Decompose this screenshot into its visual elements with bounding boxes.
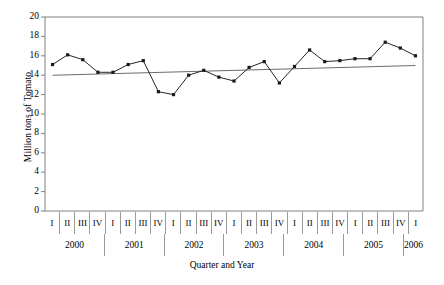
data-point-marker	[96, 71, 99, 74]
quarter-tick-label: I	[227, 212, 242, 234]
data-point-marker	[202, 69, 205, 72]
data-point-marker	[217, 76, 220, 79]
quarter-tick-label: II	[60, 212, 75, 234]
x-axis-title: Quarter and Year	[0, 260, 444, 270]
tomato-production-line-chart: Million tons of Tomato 02468101214161820…	[0, 0, 444, 285]
quarter-tick-label: III	[318, 212, 333, 234]
data-point-marker	[399, 46, 402, 49]
quarter-tick-label: IV	[333, 212, 348, 234]
data-point-marker	[263, 60, 266, 63]
data-point-marker	[51, 63, 54, 66]
trend-line	[53, 66, 416, 76]
data-point-marker	[353, 57, 356, 60]
quarter-tick-label: III	[197, 212, 212, 234]
data-point-marker	[414, 54, 417, 57]
year-tick-label: 2001	[105, 234, 165, 256]
quarter-label-row: IIIIIIIVIIIIIIIVIIIIIIIVIIIIIIIVIIIIIIIV…	[45, 212, 423, 234]
quarter-tick-label: III	[136, 212, 151, 234]
quarter-tick-label: I	[166, 212, 181, 234]
quarter-tick-label: III	[75, 212, 90, 234]
data-point-marker	[127, 63, 130, 66]
data-point-marker	[81, 58, 84, 61]
quarter-tick-label: I	[106, 212, 121, 234]
quarter-tick-label: IV	[272, 212, 287, 234]
quarter-tick-label: IV	[212, 212, 227, 234]
year-tick-label: 2000	[45, 234, 105, 256]
data-point-marker	[232, 79, 235, 82]
quarter-tick-label: I	[45, 212, 60, 234]
quarter-tick-label: I	[348, 212, 363, 234]
data-point-marker	[248, 66, 251, 69]
year-tick-label: 2004	[284, 234, 344, 256]
quarter-tick-label: I	[409, 212, 423, 234]
data-point-marker	[172, 93, 175, 96]
quarter-tick-label: IV	[151, 212, 166, 234]
data-point-marker	[157, 90, 160, 93]
data-point-marker	[111, 71, 114, 74]
data-point-marker	[187, 74, 190, 77]
data-point-marker	[308, 48, 311, 51]
data-point-marker	[323, 60, 326, 63]
year-label-row: 2000200120022003200420052006	[45, 234, 423, 256]
quarter-tick-label: II	[303, 212, 318, 234]
data-point-marker	[278, 81, 281, 84]
quarter-tick-label: III	[378, 212, 393, 234]
quarter-tick-label: II	[181, 212, 196, 234]
year-tick-label: 2002	[165, 234, 225, 256]
x-axis-category-band: IIIIIIIVIIIIIIIVIIIIIIIVIIIIIIIVIIIIIIIV…	[45, 212, 423, 256]
data-point-marker	[66, 53, 69, 56]
year-tick-label: 2003	[224, 234, 284, 256]
data-series-line	[53, 42, 416, 94]
data-point-marker	[384, 41, 387, 44]
quarter-tick-label: IV	[90, 212, 105, 234]
data-point-marker	[293, 65, 296, 68]
quarter-tick-label: II	[242, 212, 257, 234]
data-point-marker	[368, 57, 371, 60]
quarter-tick-label: II	[363, 212, 378, 234]
year-tick-label: 2005	[344, 234, 404, 256]
data-point-marker	[338, 59, 341, 62]
quarter-tick-label: II	[121, 212, 136, 234]
year-tick-label: 2006	[404, 234, 423, 256]
quarter-tick-label: III	[257, 212, 272, 234]
quarter-tick-label: IV	[394, 212, 409, 234]
data-point-marker	[142, 59, 145, 62]
quarter-tick-label: I	[288, 212, 303, 234]
